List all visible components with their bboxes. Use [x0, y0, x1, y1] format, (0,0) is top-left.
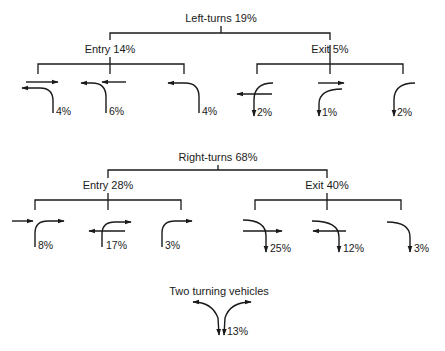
two-turning-group: Two turning vehicles 13% — [169, 285, 269, 337]
left-exit-case-2-icon: 1% — [318, 83, 344, 118]
right-exit-case-1-icon: 25% — [243, 220, 291, 254]
left-turns-group: Left-turns 19% Entry 14% Exit 5% 4% 6% 4… — [22, 12, 415, 118]
left-exit-case-1-pct: 2% — [257, 106, 272, 118]
right-exit-case-2-pct: 12% — [343, 242, 364, 254]
left-entry-case-3-icon: 4% — [168, 83, 217, 117]
right-entry-label: Entry 28% — [83, 179, 134, 191]
left-entry-case-1-pct: 4% — [56, 105, 71, 117]
left-turns-title: Left-turns 19% — [185, 12, 257, 24]
right-exit-case-1-pct: 25% — [270, 242, 291, 254]
left-exit-case-1-icon: 2% — [237, 83, 273, 118]
right-exit-case-3-icon: 3% — [387, 222, 429, 254]
right-exit-case-2-icon: 12% — [312, 221, 364, 254]
two-turning-pct: 13% — [227, 325, 248, 337]
two-turning-title: Two turning vehicles — [169, 285, 269, 297]
turning-manoeuvre-diagram: Left-turns 19% Entry 14% Exit 5% 4% 6% 4… — [0, 0, 445, 351]
right-turns-title: Right-turns 68% — [179, 151, 258, 163]
right-entry-case-1-pct: 8% — [38, 239, 53, 251]
right-turns-tree-lines — [108, 165, 327, 178]
left-exit-tree-lines — [257, 45, 403, 74]
left-entry-case-2-icon: 6% — [81, 82, 126, 117]
left-exit-case-3-icon: 2% — [394, 83, 415, 118]
left-entry-tree-lines — [38, 57, 184, 74]
left-exit-case-3-pct: 2% — [397, 106, 412, 118]
left-entry-label: Entry 14% — [85, 43, 136, 55]
right-exit-label: Exit 40% — [305, 179, 349, 191]
left-exit-case-2-pct: 1% — [322, 106, 337, 118]
right-exit-tree-lines — [255, 193, 401, 210]
left-turns-tree-lines — [110, 26, 330, 40]
left-entry-case-1-icon: 4% — [22, 82, 71, 117]
right-exit-case-3-pct: 3% — [414, 242, 429, 254]
left-entry-case-2-pct: 6% — [109, 105, 124, 117]
right-turns-group: Right-turns 68% Entry 28% Exit 40% 8% 17… — [12, 151, 429, 254]
right-entry-case-1-icon: 8% — [12, 221, 64, 251]
right-entry-case-3-pct: 3% — [165, 239, 180, 251]
right-entry-case-3-icon: 3% — [162, 221, 192, 251]
left-entry-case-3-pct: 4% — [202, 105, 217, 117]
right-entry-case-2-icon: 17% — [89, 222, 131, 251]
right-entry-tree-lines — [35, 193, 181, 210]
right-entry-case-2-pct: 17% — [106, 239, 127, 251]
